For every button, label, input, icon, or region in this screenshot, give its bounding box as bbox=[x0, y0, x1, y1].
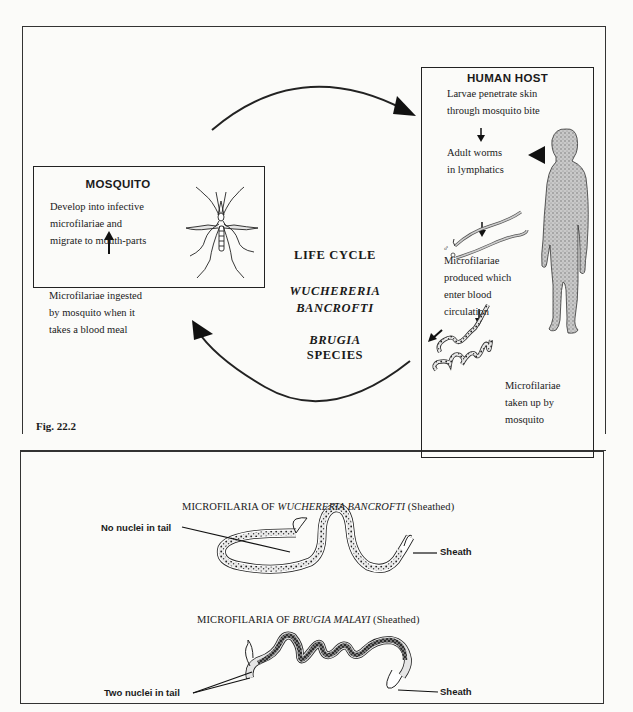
label-two-nuclei-in-tail: Two nuclei in tail bbox=[104, 687, 180, 698]
brugia-microfilaria-illustration bbox=[246, 635, 409, 688]
caption-brugia: MICROFILARIA OF BRUGIA MALAYI (Sheathed) bbox=[197, 614, 420, 625]
label-no-nuclei-in-tail: No nuclei in tail bbox=[101, 522, 171, 533]
mosquito-ingest-text: Microfilariae ingested by mosquito when … bbox=[49, 287, 142, 338]
mosquito-box-title: MOSQUITO bbox=[33, 178, 203, 190]
arrow-mosquito-to-human bbox=[212, 87, 416, 130]
caption-wuchereria: MICROFILARIA OF WUCHERERIA BANCROFTI (Sh… bbox=[182, 501, 454, 512]
human-microfilariae-produced-text: Microfilariae produced which enter blood… bbox=[444, 252, 511, 320]
human-adult-worms-text: Adult worms in lymphatics bbox=[447, 144, 504, 178]
label-sheath-bm: Sheath bbox=[440, 686, 472, 697]
human-penetrate-text: Larvae penetrate skin through mosquito b… bbox=[447, 85, 540, 119]
species-brugia: BRUGIA SPECIES bbox=[280, 333, 390, 363]
wuchereria-microfilaria-illustration bbox=[221, 508, 412, 570]
label-sheath-wb: Sheath bbox=[440, 546, 472, 557]
two-nuclei-pointer-line-b bbox=[193, 678, 250, 693]
figure-label: Fig. 22.2 bbox=[36, 420, 76, 432]
lifecycle-title: LIFE CYCLE bbox=[280, 248, 390, 263]
sheath-pointer-line-bm bbox=[398, 690, 438, 692]
human-host-box-title: HUMAN HOST bbox=[421, 72, 594, 84]
species-wuchereria-bancrofti: WUCHERERIA BANCROFTI bbox=[280, 283, 390, 317]
mosquito-develop-text: Develop into infective microfilariae and… bbox=[50, 198, 146, 249]
two-nuclei-pointer-line-a bbox=[193, 672, 252, 693]
human-taken-up-text: Microfilariae taken up by mosquito bbox=[505, 377, 560, 428]
